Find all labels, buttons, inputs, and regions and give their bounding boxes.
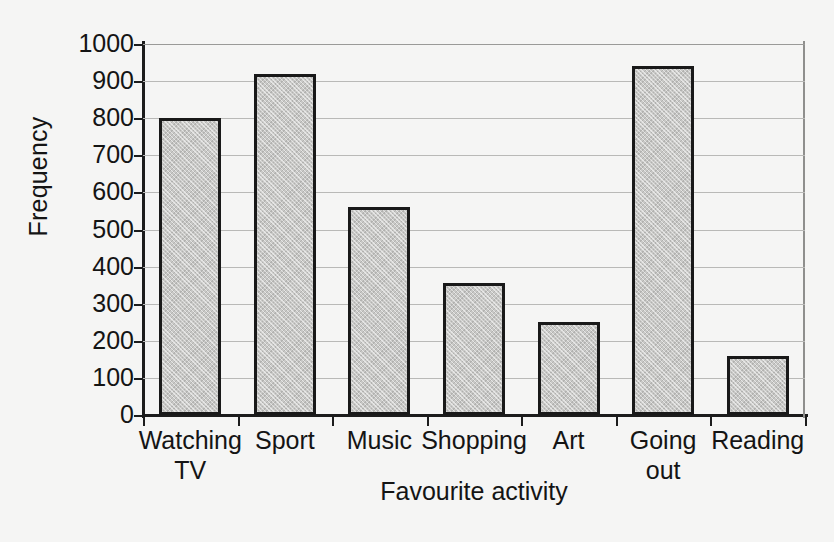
gridline [143,267,805,268]
gridline [143,192,805,193]
y-tick-label: 600 [14,179,134,204]
y-tick-label: 700 [14,142,134,167]
gridline [143,44,805,45]
y-tick-label: 300 [14,291,134,316]
y-tick-mark [134,81,143,83]
x-axis-title: Favourite activity [143,477,805,506]
x-category-label-line: Sport [255,426,315,454]
y-tick-label: 900 [14,68,134,93]
y-tick-mark [134,341,143,343]
y-tick-mark [134,267,143,269]
y-tick-mark [134,155,143,157]
bar [443,283,505,415]
y-tick-mark [134,192,143,194]
y-tick-label: 400 [14,254,134,279]
y-tick-mark [134,118,143,120]
x-category-label-line: Music [347,426,412,454]
bar [632,66,694,415]
bar [159,118,221,415]
y-tick-label: 1000 [14,31,134,56]
bar [348,207,410,415]
gridline [143,118,805,119]
bar [538,322,600,415]
bar [727,356,789,415]
gridline [143,81,805,82]
bar [254,74,316,415]
y-tick-mark [134,304,143,306]
bar-chart: Frequency 010020030040050060070080090010… [0,0,834,542]
y-tick-mark [134,378,143,380]
y-tick-label: 0 [14,402,134,427]
plot-area [143,44,805,415]
y-tick-label: 800 [14,105,134,130]
gridline [143,155,805,156]
y-tick-mark [134,44,143,46]
y-tick-mark [134,230,143,232]
y-tick-label: 500 [14,217,134,242]
gridline [143,230,805,231]
x-category-label: Reading [698,425,817,455]
x-category-label-line: Art [553,426,585,454]
x-category-label-line: Going [630,426,697,454]
y-tick-mark [134,415,143,417]
y-tick-label: 100 [14,365,134,390]
y-tick-label: 200 [14,328,134,353]
x-category-label-line: Reading [711,426,804,454]
